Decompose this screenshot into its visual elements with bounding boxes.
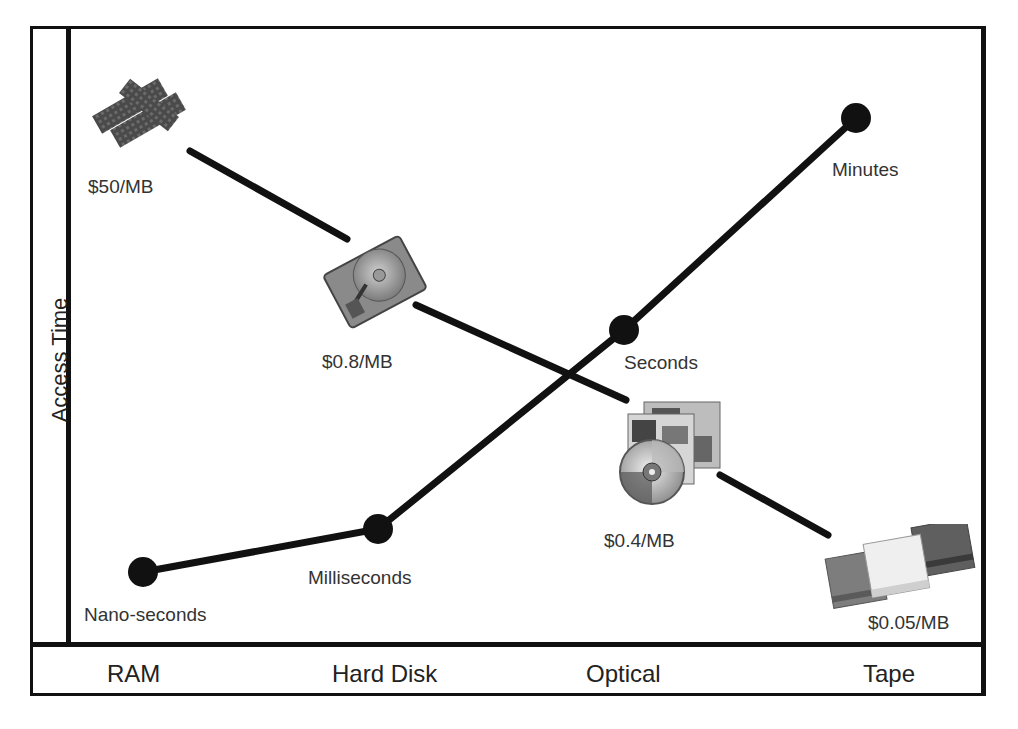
label-milliseconds: Milliseconds (308, 567, 411, 589)
cost-series (190, 151, 828, 535)
ram-modules-icon (88, 66, 188, 156)
tape-cartridges-icon (822, 524, 982, 614)
hard-disk-icon (320, 232, 430, 332)
point-milliseconds (363, 514, 393, 544)
label-cost-optical: $0.4/MB (604, 530, 675, 552)
label-cost-tape: $0.05/MB (868, 612, 949, 634)
label-nano-seconds: Nano-seconds (84, 604, 207, 626)
point-minutes (841, 103, 871, 133)
label-minutes: Minutes (832, 159, 899, 181)
point-nano-seconds (128, 557, 158, 587)
point-seconds (609, 315, 639, 345)
label-seconds: Seconds (624, 352, 698, 374)
label-cost-ram: $50/MB (88, 176, 153, 198)
optical-disc-icon (612, 396, 732, 508)
label-cost-hard-disk: $0.8/MB (322, 351, 393, 373)
